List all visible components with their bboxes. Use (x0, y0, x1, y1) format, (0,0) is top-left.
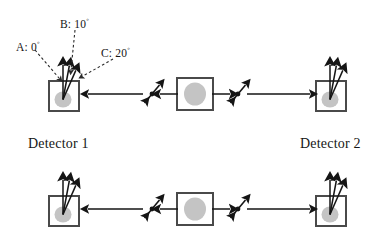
particle-source (177, 193, 213, 225)
degree-symbol-b: ◦ (86, 15, 89, 24)
particle-right (231, 200, 246, 218)
angle-label-b: B: 10◦ (60, 17, 89, 30)
particle-right (231, 85, 246, 103)
diagram-canvas (0, 0, 390, 247)
degree-symbol-c: ◦ (127, 44, 130, 53)
epr-experiment-diagram: A: 0◦ B: 10◦ C: 20◦ Detector 1 Detector … (0, 0, 390, 247)
detector-2 (316, 180, 346, 226)
particle-source (177, 78, 213, 110)
particle-left (145, 200, 160, 218)
degree-symbol-a: ◦ (37, 38, 40, 47)
detector-1-caption: Detector 1 (28, 137, 89, 151)
angle-label-b-text: B: 10 (60, 18, 86, 30)
leader-line-a (35, 50, 59, 78)
row-bottom (49, 180, 346, 226)
leader-line-c (83, 59, 113, 76)
detector-2-caption: Detector 2 (300, 137, 361, 151)
angle-label-c-text: C: 20 (101, 47, 127, 59)
angle-label-c: C: 20◦ (101, 46, 130, 59)
row-top (35, 30, 346, 111)
detector-1 (49, 180, 79, 226)
leader-line-b (71, 30, 75, 70)
detector-2 (316, 65, 346, 111)
detector-1 (49, 65, 79, 111)
angle-label-a-text: A: 0 (16, 41, 37, 53)
angle-label-a: A: 0◦ (16, 40, 40, 53)
particle-left (145, 85, 160, 103)
